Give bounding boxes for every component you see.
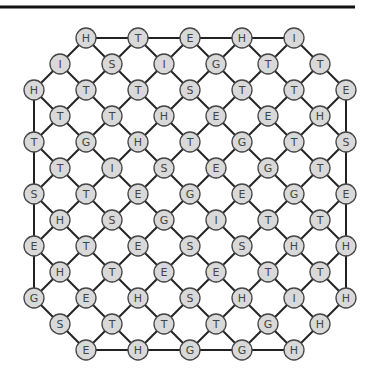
letter-tile[interactable]: E: [154, 262, 174, 282]
letter-tile[interactable]: H: [232, 288, 252, 308]
letter-tile[interactable]: G: [232, 340, 252, 360]
letter-tile[interactable]: E: [76, 340, 96, 360]
letter-tile[interactable]: H: [128, 340, 148, 360]
letter-tile[interactable]: E: [336, 80, 356, 100]
tile-letter: H: [290, 240, 298, 253]
tile-letter: E: [343, 188, 350, 201]
letter-tile[interactable]: T: [310, 262, 330, 282]
letter-tile[interactable]: G: [258, 314, 278, 334]
letter-tile[interactable]: T: [232, 80, 252, 100]
letter-tile[interactable]: T: [50, 158, 70, 178]
letter-tile[interactable]: S: [102, 210, 122, 230]
tile-letter: T: [290, 84, 298, 97]
letter-tile[interactable]: T: [76, 236, 96, 256]
letter-tile[interactable]: H: [232, 28, 252, 48]
letter-tile[interactable]: H: [76, 28, 96, 48]
letter-tile[interactable]: T: [284, 132, 304, 152]
letter-tile[interactable]: E: [232, 184, 252, 204]
letter-tile[interactable]: T: [154, 314, 174, 334]
letter-tile[interactable]: H: [128, 288, 148, 308]
tile-letter: T: [82, 84, 90, 97]
letter-tile[interactable]: H: [50, 210, 70, 230]
tile-letter: T: [108, 318, 116, 331]
letter-tile[interactable]: I: [50, 54, 70, 74]
letter-tile[interactable]: G: [180, 340, 200, 360]
letter-tile[interactable]: T: [310, 158, 330, 178]
letter-tile[interactable]: S: [24, 184, 44, 204]
letter-tile[interactable]: H: [284, 236, 304, 256]
letter-tile[interactable]: T: [180, 132, 200, 152]
letter-tile[interactable]: E: [336, 184, 356, 204]
tile-letter: T: [264, 58, 272, 71]
letter-tile[interactable]: H: [336, 288, 356, 308]
letter-tile[interactable]: T: [206, 314, 226, 334]
tile-letter: H: [342, 240, 350, 253]
letter-tile[interactable]: T: [258, 262, 278, 282]
letter-tile[interactable]: E: [24, 236, 44, 256]
letter-tile[interactable]: E: [206, 158, 226, 178]
letter-tile[interactable]: T: [258, 210, 278, 230]
letter-tile[interactable]: S: [180, 236, 200, 256]
letter-tile[interactable]: T: [76, 80, 96, 100]
letter-tile[interactable]: T: [284, 80, 304, 100]
letter-tile[interactable]: T: [76, 184, 96, 204]
tile-letter: E: [213, 110, 220, 123]
letter-tile[interactable]: S: [102, 54, 122, 74]
letter-tile[interactable]: I: [284, 28, 304, 48]
letter-tile[interactable]: G: [232, 132, 252, 152]
letter-tile[interactable]: E: [180, 28, 200, 48]
letter-tile[interactable]: S: [180, 80, 200, 100]
tile-letter: I: [58, 58, 61, 71]
letter-tile[interactable]: E: [258, 106, 278, 126]
tile-letter: T: [108, 110, 116, 123]
letter-tile[interactable]: H: [128, 132, 148, 152]
letter-tile[interactable]: I: [154, 54, 174, 74]
tile-letter: S: [161, 162, 168, 175]
letter-tile[interactable]: T: [50, 106, 70, 126]
letter-tile[interactable]: G: [154, 210, 174, 230]
tile-letter: T: [316, 58, 324, 71]
letter-tile[interactable]: H: [336, 236, 356, 256]
letter-tile[interactable]: T: [102, 314, 122, 334]
letter-tile[interactable]: H: [310, 314, 330, 334]
letter-tile[interactable]: G: [284, 184, 304, 204]
letter-tile[interactable]: G: [76, 132, 96, 152]
letter-tile[interactable]: I: [206, 210, 226, 230]
tile-letter: E: [135, 188, 142, 201]
letter-tile[interactable]: S: [50, 314, 70, 334]
letter-tile[interactable]: H: [50, 262, 70, 282]
tile-letter: E: [343, 84, 350, 97]
letter-tile[interactable]: S: [154, 158, 174, 178]
letter-tile[interactable]: E: [206, 106, 226, 126]
letter-tile[interactable]: E: [128, 236, 148, 256]
letter-tile[interactable]: G: [180, 184, 200, 204]
tile-letter: T: [56, 162, 64, 175]
letter-tile[interactable]: S: [180, 288, 200, 308]
letter-tile[interactable]: E: [76, 288, 96, 308]
letter-tile[interactable]: E: [206, 262, 226, 282]
letter-tile[interactable]: T: [128, 80, 148, 100]
letter-tile[interactable]: E: [128, 184, 148, 204]
tile-letter: I: [110, 162, 113, 175]
letter-tile[interactable]: T: [128, 28, 148, 48]
letter-tile[interactable]: T: [310, 210, 330, 230]
letter-tile[interactable]: H: [284, 340, 304, 360]
letter-tile[interactable]: H: [310, 106, 330, 126]
letter-tile[interactable]: T: [102, 262, 122, 282]
letter-tile[interactable]: T: [24, 132, 44, 152]
letter-tile[interactable]: I: [284, 288, 304, 308]
letter-tile[interactable]: S: [336, 132, 356, 152]
tile-letter: G: [238, 344, 247, 357]
tile-letter: H: [134, 136, 142, 149]
letter-tile[interactable]: G: [258, 158, 278, 178]
letter-tile[interactable]: T: [102, 106, 122, 126]
letter-tile[interactable]: I: [102, 158, 122, 178]
letter-tile[interactable]: T: [258, 54, 278, 74]
letter-tile[interactable]: T: [310, 54, 330, 74]
letter-tile[interactable]: H: [24, 80, 44, 100]
letter-tile[interactable]: H: [154, 106, 174, 126]
letter-tile[interactable]: G: [24, 288, 44, 308]
tile-letter: H: [290, 344, 298, 357]
letter-tile[interactable]: G: [206, 54, 226, 74]
letter-tile[interactable]: S: [232, 236, 252, 256]
